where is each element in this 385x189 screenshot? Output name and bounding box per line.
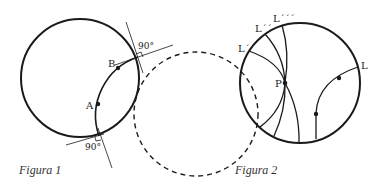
- point-on-l-upper: [337, 76, 341, 80]
- label-l: L: [361, 60, 368, 71]
- right-angle-mark-lower: [95, 137, 101, 141]
- figure-2-caption: Figura 2: [234, 163, 277, 177]
- poincare-disk: [240, 23, 360, 143]
- angle-label-upper: 90°: [138, 41, 154, 51]
- point-on-l-lower: [314, 112, 318, 116]
- point-a: [96, 102, 100, 106]
- label-l-triple-prime: L´´´: [273, 13, 295, 24]
- dashed-circle: [134, 52, 258, 176]
- figure-2: P L´ L´´ L´´´ L Figura 2: [234, 13, 368, 177]
- point-b: [116, 66, 120, 70]
- label-a: A: [85, 100, 94, 111]
- label-p: P: [275, 78, 282, 89]
- diagram-canvas: B A 90° 90° Figura 1 P L´ L´´ L´´´ L Fig…: [0, 0, 385, 189]
- label-l-prime: L´: [238, 43, 250, 54]
- figure-1: B A 90° 90° Figura 1: [18, 19, 258, 177]
- label-l-double-prime: L´´: [255, 23, 272, 34]
- angle-label-lower: 90°: [85, 142, 101, 152]
- figure-1-caption: Figura 1: [18, 163, 61, 177]
- point-p: [283, 81, 288, 86]
- label-b: B: [108, 58, 115, 69]
- geodesic-l1: [249, 51, 285, 127]
